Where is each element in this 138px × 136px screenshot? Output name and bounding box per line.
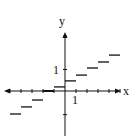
y-axis-up-arrow-icon (63, 32, 68, 38)
y-tick-label-1: 1 (53, 63, 59, 77)
x-axis-left-arrow-icon (4, 89, 10, 94)
x-axis-label: x (123, 84, 129, 98)
y-axis-label: y (59, 14, 65, 28)
axes (4, 32, 121, 136)
x-tick-label-1: 1 (72, 93, 78, 107)
step-function-plot: y x 1 1 (0, 0, 138, 136)
